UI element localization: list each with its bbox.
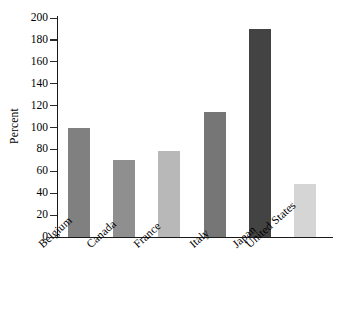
bar-japan — [249, 29, 271, 237]
y-tick-mark — [50, 171, 57, 172]
bar-italy — [204, 112, 226, 237]
y-tick-mark — [50, 83, 57, 84]
y-tick-label: 120 — [8, 100, 48, 112]
y-tick-label: 80 — [8, 143, 48, 155]
y-tick-mark — [50, 127, 57, 128]
y-tick-mark — [50, 18, 57, 19]
y-tick-label: 40 — [8, 187, 48, 199]
bar-united-states — [294, 184, 316, 237]
y-tick-label: 140 — [8, 78, 48, 90]
y-tick-mark — [50, 215, 57, 216]
y-tick-label: 200 — [8, 12, 48, 24]
y-tick-label: 160 — [8, 56, 48, 68]
y-tick-label: 60 — [8, 165, 48, 177]
y-tick-label: 100 — [8, 122, 48, 134]
y-tick-mark — [50, 39, 57, 40]
y-tick-mark — [50, 61, 57, 62]
bar-chart: Percent 020406080100120140160180200 Belg… — [0, 0, 340, 313]
y-tick-label: 180 — [8, 34, 48, 46]
y-tick-mark — [50, 193, 57, 194]
y-tick-mark — [50, 105, 57, 106]
y-tick-mark — [50, 149, 57, 150]
y-tick-label: 20 — [8, 209, 48, 221]
bar-france — [158, 151, 180, 238]
